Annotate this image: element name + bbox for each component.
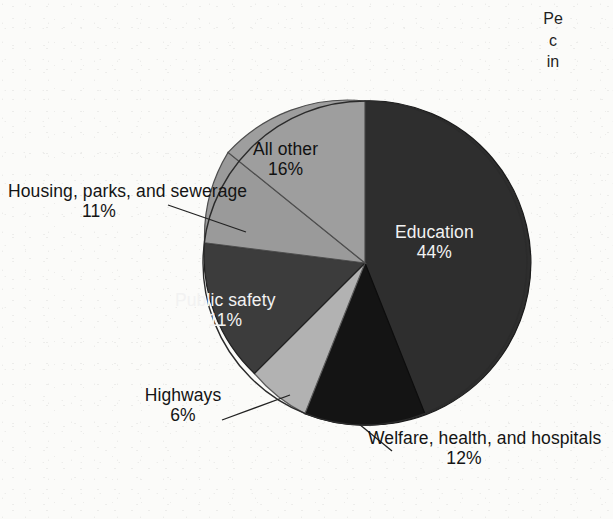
slice-label-public-safety-name: Public safety [175,290,276,310]
slice-label-welfare-line1: Welfare, health, [368,428,492,448]
slice-label-public-safety: Public safety 11% [175,290,276,331]
figure-caption-line-1: Pe [493,8,613,30]
figure-caption: Pe c in [493,8,613,73]
slice-label-education-name: Education [395,222,474,242]
figure-caption-line-2: c [493,30,613,52]
slice-label-welfare-health-hospitals: Welfare, health, and hospitals 12% [368,428,560,469]
slice-label-housing-line2: and sewerage [136,181,247,201]
figure-caption-line-3: in [493,51,613,73]
slice-label-highways: Highways 6% [119,385,247,426]
slice-label-education-percent: 44% [395,242,474,262]
pie-chart-figure: Education 44% All other 16% Public safet… [0,0,613,519]
slice-label-housing-percent: 11% [8,201,190,221]
slice-label-welfare-line2: and hospitals [497,428,601,448]
slice-label-all-other-name: All other [253,139,318,159]
slice-label-housing-parks-sewerage: Housing, parks, and sewerage 11% [8,181,190,222]
slice-label-all-other: All other 16% [253,139,318,180]
slice-label-welfare-percent: 12% [368,448,560,468]
slice-label-highways-name: Highways [145,385,222,405]
slice-label-all-other-percent: 16% [253,159,318,179]
slice-label-public-safety-percent: 11% [175,310,276,330]
slice-label-highways-percent: 6% [119,405,247,425]
slice-label-education: Education 44% [395,222,474,263]
slice-label-housing-line1: Housing, parks, [8,181,131,201]
